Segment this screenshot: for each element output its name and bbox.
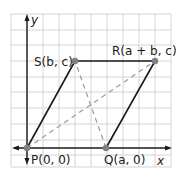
- point-r: [152, 58, 158, 64]
- y-axis: [25, 14, 30, 165]
- point-p: [24, 145, 30, 151]
- side-sp: [27, 61, 75, 148]
- x-axis-left-arrow-icon: [12, 146, 19, 151]
- side-qr: [106, 61, 155, 148]
- y-axis-up-arrow-icon: [25, 14, 30, 21]
- point-r-label: R(a + b, c): [112, 44, 177, 58]
- y-axis-down-arrow-icon: [25, 158, 30, 165]
- point-s-label: S(b, c): [34, 55, 73, 69]
- grid: [11, 14, 171, 167]
- point-p-label: P(0, 0): [31, 153, 71, 167]
- parallelogram-diagram: y x S(b, c) R(a + b, c) P(0, 0) Q(a, 0): [0, 0, 184, 180]
- point-q-label: Q(a, 0): [104, 153, 145, 167]
- point-q: [103, 145, 109, 151]
- x-axis: [12, 146, 172, 151]
- y-axis-label: y: [30, 13, 39, 27]
- x-axis-label: x: [156, 154, 165, 168]
